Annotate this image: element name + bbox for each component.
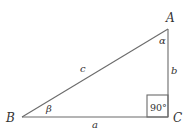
angle-beta-label: β bbox=[45, 103, 52, 114]
right-angle-label: 90° bbox=[150, 102, 167, 113]
vertex-b-label: B bbox=[5, 111, 15, 125]
right-triangle-diagram: 90° A B C c b a α β bbox=[0, 0, 187, 132]
side-b-label: b bbox=[171, 65, 177, 76]
angle-alpha-label: α bbox=[159, 35, 166, 46]
vertex-c-label: C bbox=[173, 111, 182, 125]
side-c-label: c bbox=[80, 63, 86, 74]
vertex-a-label: A bbox=[165, 11, 175, 25]
side-c-line bbox=[22, 29, 168, 117]
side-a-label: a bbox=[92, 119, 98, 130]
